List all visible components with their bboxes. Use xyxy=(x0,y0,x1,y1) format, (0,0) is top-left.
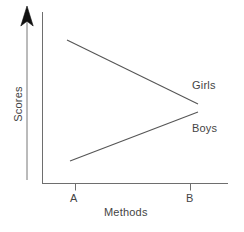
interaction-plot-figure: Girls Boys A B Methods Scores xyxy=(0,0,244,232)
series-line-boys xyxy=(70,112,198,161)
plot-canvas xyxy=(0,0,244,232)
series-label-boys: Boys xyxy=(192,122,217,134)
y-axis-title: Scores xyxy=(12,78,24,130)
x-axis-title: Methods xyxy=(104,206,148,218)
x-axis-tick-label-a: A xyxy=(70,192,78,204)
series-line-girls xyxy=(67,40,198,104)
x-axis-tick-label-b: B xyxy=(186,192,194,204)
series-label-girls: Girls xyxy=(192,79,216,91)
